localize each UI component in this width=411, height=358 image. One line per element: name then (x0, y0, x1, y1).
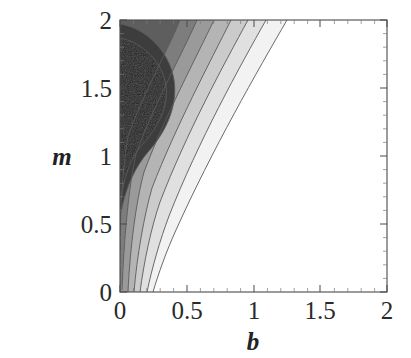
y-tick-label-4: 2 (100, 7, 113, 34)
x-tick-label-4: 2 (381, 297, 394, 324)
x-tick-label-0: 0 (114, 297, 127, 324)
x-tick-label-3: 1.5 (304, 297, 335, 324)
y-tick-label-0: 0 (100, 279, 113, 306)
contour-band-group (120, 20, 387, 292)
x-axis-title: b (247, 328, 260, 355)
y-tick-label-1: 0.5 (81, 211, 112, 238)
contour-plot-canvas: 0 0.5 1 1.5 2 0 0.5 1 1.5 2 b m (0, 0, 411, 358)
y-tick-label-2: 1 (100, 143, 113, 170)
y-axis-tick-labels: 0 0.5 1 1.5 2 (81, 7, 112, 306)
x-axis-tick-labels: 0 0.5 1 1.5 2 (114, 297, 394, 324)
x-tick-label-2: 1 (248, 297, 261, 324)
y-axis-title: m (52, 143, 71, 170)
x-tick-label-1: 0.5 (171, 297, 202, 324)
y-tick-label-3: 1.5 (81, 75, 112, 102)
contour-plot-figure: 0 0.5 1 1.5 2 0 0.5 1 1.5 2 b m (0, 0, 411, 358)
